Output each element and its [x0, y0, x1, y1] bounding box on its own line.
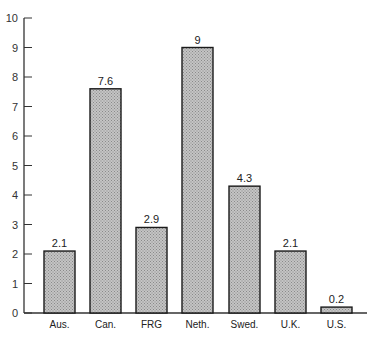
bar-value-label: 2.1	[283, 237, 298, 249]
y-tick-label: 10	[6, 12, 18, 24]
bar-group: 2.1U.K.	[275, 237, 306, 330]
category-label: Neth.	[186, 319, 210, 330]
category-label: FRG	[141, 319, 162, 330]
bar	[90, 89, 121, 313]
y-tick-label: 9	[12, 42, 18, 54]
category-label: U.K.	[281, 319, 300, 330]
y-tick-label: 5	[12, 160, 18, 172]
bar-value-label: 4.3	[237, 172, 252, 184]
bars: 2.1Aus.7.6Can.2.9FRG9Neth.4.3Swed.2.1U.K…	[44, 34, 352, 331]
bar	[321, 307, 352, 313]
bar-value-label: 7.6	[98, 75, 113, 87]
category-label: Aus.	[49, 319, 69, 330]
bar-group: 7.6Can.	[90, 75, 121, 330]
bar-group: 2.9FRG	[136, 213, 167, 330]
y-tick-label: 7	[12, 101, 18, 113]
y-tick-label: 6	[12, 130, 18, 142]
bar	[44, 251, 75, 313]
y-tick-label: 0	[12, 307, 18, 319]
bar-value-label: 9	[194, 34, 200, 46]
category-label: Swed.	[231, 319, 259, 330]
y-tick-label: 8	[12, 71, 18, 83]
category-label: U.S.	[327, 319, 346, 330]
bar-value-label: 2.1	[52, 237, 67, 249]
y-tick-label: 1	[12, 278, 18, 290]
bar-group: 2.1Aus.	[44, 237, 75, 330]
bar	[136, 227, 167, 313]
bar-group: 4.3Swed.	[229, 172, 260, 330]
y-tick-label: 2	[12, 248, 18, 260]
bar-value-label: 0.2	[329, 293, 344, 305]
bar-chart: 012345678910 2.1Aus.7.6Can.2.9FRG9Neth.4…	[0, 0, 377, 338]
y-tick-label: 4	[12, 189, 18, 201]
y-tick-label: 3	[12, 219, 18, 231]
bar-value-label: 2.9	[144, 213, 159, 225]
bar	[275, 251, 306, 313]
bar-group: 0.2U.S.	[321, 293, 352, 330]
y-axis: 012345678910	[6, 12, 32, 319]
bar	[182, 48, 213, 314]
bar-group: 9Neth.	[182, 34, 213, 331]
bar	[229, 186, 260, 313]
category-label: Can.	[95, 319, 116, 330]
